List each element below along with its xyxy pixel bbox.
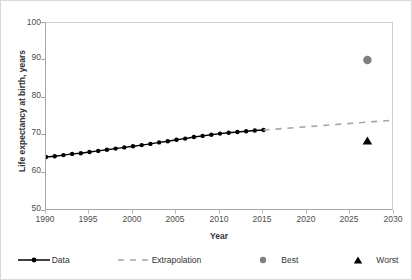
legend-item-worst[interactable]: Worst	[340, 251, 398, 269]
dashed-line-icon	[116, 253, 152, 267]
legend-label-data: Data	[52, 255, 70, 265]
line-marker-icon	[16, 253, 52, 267]
x-tick-label-2025: 2025	[329, 214, 369, 224]
legend-item-best[interactable]: Best	[245, 251, 298, 269]
x-tick-label-2005: 2005	[155, 214, 195, 224]
plot-svg	[46, 23, 393, 210]
series-extrapolation-line	[264, 120, 394, 130]
legend-label-best: Best	[281, 255, 298, 265]
y-tick-label-50: 50	[7, 204, 41, 213]
legend-item-extrapolation[interactable]: Extrapolation	[116, 251, 202, 269]
black-triangle-icon	[340, 253, 376, 267]
x-tick-label-1995: 1995	[68, 214, 108, 224]
legend-item-data[interactable]: Data	[16, 251, 70, 269]
x-tick-label-2015: 2015	[242, 214, 282, 224]
gray-circle-icon	[245, 253, 281, 267]
x-tick-label-2020: 2020	[286, 214, 326, 224]
x-tick-label-1990: 1990	[25, 214, 65, 224]
x-tick-label-2000: 2000	[112, 214, 152, 224]
chart-legend: Data Extrapolation Best	[1, 249, 412, 271]
chart-container: 100 90 80 70 60 50	[0, 0, 412, 280]
legend-label-worst: Worst	[376, 255, 398, 265]
plot-area	[45, 22, 393, 210]
x-tick-label-2030: 2030	[373, 214, 412, 224]
legend-label-extrapolation: Extrapolation	[152, 255, 202, 265]
x-tick-label-2010: 2010	[199, 214, 239, 224]
x-axis-title: Year	[45, 231, 393, 241]
marker-best	[363, 56, 371, 64]
y-axis-title: Life expectancy at birth, years	[17, 20, 27, 202]
marker-worst	[363, 137, 373, 145]
